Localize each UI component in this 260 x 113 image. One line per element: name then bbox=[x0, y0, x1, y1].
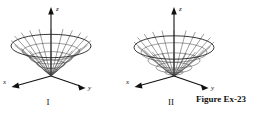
z-axis-arrowhead bbox=[48, 7, 54, 15]
y-axis-figure-two bbox=[174, 76, 209, 91]
y-axis-arrowhead bbox=[78, 84, 86, 90]
x-axis-figure-two bbox=[135, 76, 175, 89]
x-axis-label-figure-one: x bbox=[2, 78, 7, 86]
figure-one-graphic: z x y I bbox=[0, 0, 130, 113]
figure-ex-23: z x y I bbox=[0, 0, 260, 113]
y-axis-figure-one bbox=[51, 76, 86, 91]
caption-graphic: Figure Ex-23 bbox=[196, 90, 260, 110]
x-axis-label-figure-two: x bbox=[125, 78, 130, 86]
z-axis-arrowhead bbox=[171, 7, 177, 15]
figure-caption: Figure Ex-23 bbox=[196, 94, 247, 104]
z-axis-label-figure-two: z bbox=[178, 5, 182, 13]
x-axis-figure-one bbox=[12, 76, 52, 89]
y-axis-label-figure-one: y bbox=[87, 84, 92, 92]
x-axis-arrowhead bbox=[12, 82, 20, 88]
cone-generator-lines bbox=[11, 29, 91, 76]
figure-two-roman-label: II bbox=[168, 97, 174, 107]
x-axis-arrowhead bbox=[135, 82, 143, 88]
figure-one-roman-label: I bbox=[47, 97, 50, 107]
z-axis-label-figure-one: z bbox=[55, 5, 59, 13]
